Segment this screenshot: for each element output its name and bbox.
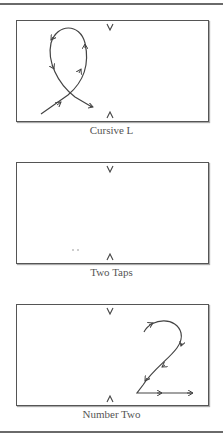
gesture-panel-cursive-l [16,20,209,122]
caption-cursive-l: Cursive L [0,124,223,136]
top-rule [0,3,223,5]
bottom-rule [0,431,223,433]
caption-two-taps: Two Taps [0,266,223,278]
caption-number-two: Number Two [0,408,223,420]
two-taps-icon [17,163,208,263]
number-two-path-icon [17,305,208,405]
gesture-panel-number-two [16,304,209,406]
cursive-l-path-icon [17,21,208,121]
gesture-panel-two-taps [16,162,209,264]
